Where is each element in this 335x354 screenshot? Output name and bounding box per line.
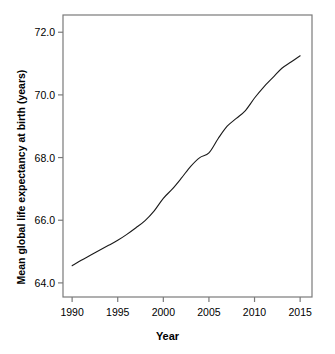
data-series-line: [72, 56, 300, 266]
y-axis-tick-marks: [58, 32, 63, 283]
x-axis-tick-marks: [72, 297, 300, 302]
life-expectancy-line-chart: Mean global life expectancy at birth (ye…: [0, 0, 335, 354]
plot-area: [0, 0, 335, 354]
plot-frame: [63, 15, 312, 297]
